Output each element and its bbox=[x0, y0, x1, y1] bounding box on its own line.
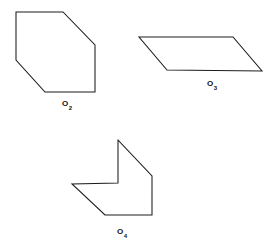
shape-label-o3-subscript: 3 bbox=[214, 85, 217, 91]
parallelogram-o3-outline bbox=[139, 37, 262, 71]
hexagon-o2-outline bbox=[16, 12, 95, 92]
shape-label-o2-subscript: 2 bbox=[69, 105, 72, 111]
shape-label-o3: O3 bbox=[207, 80, 217, 90]
shape-label-o3-base: O bbox=[207, 79, 213, 88]
concave-arrow-o4-outline bbox=[72, 140, 152, 215]
shape-label-o2: O2 bbox=[62, 100, 72, 110]
shapes-drawing bbox=[0, 0, 278, 249]
figure-canvas: O2 O3 O4 bbox=[0, 0, 278, 249]
shape-label-o4-base: O bbox=[117, 227, 123, 236]
shape-label-o4: O4 bbox=[117, 228, 127, 238]
shape-label-o2-base: O bbox=[62, 99, 68, 108]
shape-label-o4-subscript: 4 bbox=[124, 233, 127, 239]
